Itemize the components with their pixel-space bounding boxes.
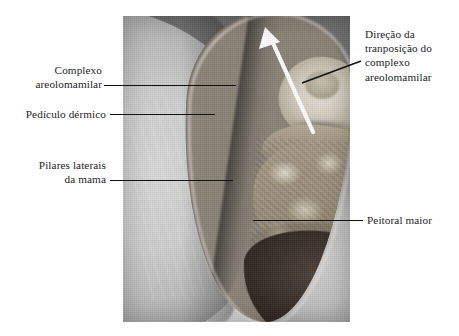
label-pilares-laterais-da-mama: Pilares laterais da mama <box>22 158 106 186</box>
label-direcao-da-transposicao: Direção da tranposição do complexo areol… <box>365 27 457 84</box>
label-peitoral-maior: Peitoral maior <box>367 213 457 227</box>
leader-line-direcao-transposicao <box>302 61 361 83</box>
label-pediculo-dermico: Pedículo dérmico <box>6 107 106 121</box>
figure-root: Complexo areolomamilar Pedículo dérmico … <box>0 0 459 336</box>
label-complexo-areolomamilar: Complexo areolomamilar <box>20 63 102 91</box>
